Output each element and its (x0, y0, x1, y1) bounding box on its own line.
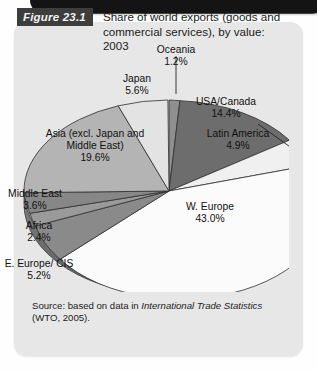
label-w-europe-name: W. Europe (186, 201, 234, 212)
label-usa-canada-value: 14.4% (211, 108, 240, 119)
source-prefix: Source: based on data in (32, 300, 141, 311)
label-asia-name: Asia (excl. Japan and Middle East) (46, 128, 144, 151)
label-e-europe-cis-name: E. Europe/ CIS 5.2% (5, 258, 74, 281)
pie-chart: Oceania 1.2% Japan 5.6% USA/Canada 14.4%… (0, 46, 289, 292)
label-oceania-name: Oceania (157, 44, 195, 55)
label-asia-value: 19.6% (80, 152, 109, 163)
label-w-europe: W. Europe 43.0% (166, 201, 254, 225)
label-oceania-value: 1.2% (164, 56, 187, 67)
label-oceania: Oceania 1.2% (133, 44, 219, 68)
label-usa-canada-name: USA/Canada (196, 96, 256, 107)
label-africa-value: 2.4% (27, 232, 50, 243)
label-latin-america: Latin America 4.9% (186, 128, 290, 152)
source-title: International Trade Statistics (141, 300, 262, 311)
label-japan-name: Japan (123, 73, 151, 84)
label-middle-east: Middle East 3.6% (2, 188, 68, 212)
label-japan-value: 5.6% (125, 85, 148, 96)
label-w-europe-value: 43.0% (195, 213, 224, 224)
label-e-europe-cis: E. Europe/ CIS 5.2% (0, 258, 78, 282)
source-suffix: (WTO, 2005). (32, 312, 90, 323)
figure-source: Source: based on data in International T… (32, 300, 284, 325)
label-japan: Japan 5.6% (110, 73, 164, 97)
label-latin-america-value: 4.9% (226, 140, 249, 151)
label-africa: Africa 2.4% (8, 220, 70, 244)
label-africa-name: Africa (26, 220, 52, 231)
figure-root: Figure 23.1 Share of world exports (good… (0, 0, 317, 372)
label-usa-canada: USA/Canada 14.4% (178, 96, 274, 120)
label-asia: Asia (excl. Japan and Middle East) 19.6% (33, 128, 157, 163)
label-latin-america-name: Latin America (207, 128, 269, 139)
figure-number-badge: Figure 23.1 (17, 8, 93, 26)
label-middle-east-name: Middle East 3.6% (8, 188, 62, 211)
